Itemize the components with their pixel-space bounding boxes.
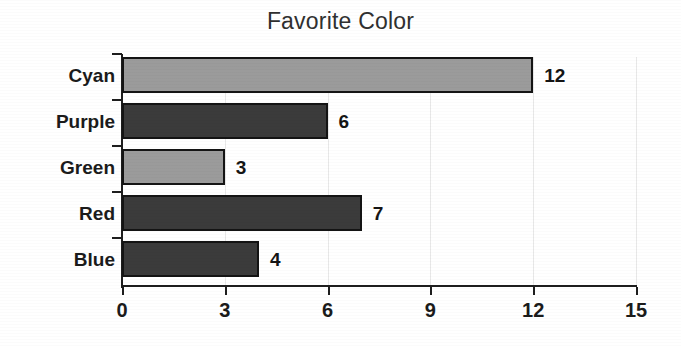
bar-value-label-green: 3 [236,158,247,177]
bar-value-label-purple: 6 [339,112,350,131]
x-tick-label-6: 6 [308,300,348,320]
bar-value-label-red: 7 [373,204,384,223]
bar-cyan[interactable] [122,57,533,93]
bar-value-label-blue: 4 [270,250,281,269]
x-tick-label-12: 12 [513,300,553,320]
x-axis-line [121,285,637,287]
x-tick-label-0: 0 [102,300,142,320]
x-tick-3 [225,287,227,295]
category-label-green: Green [5,158,115,177]
x-tick-12 [533,287,535,295]
gridline-12 [533,57,534,285]
bar-red[interactable] [122,195,362,231]
category-label-cyan: Cyan [5,66,115,85]
bar-purple[interactable] [122,103,328,139]
x-tick-label-3: 3 [205,300,245,320]
gridline-15 [636,57,637,285]
category-label-purple: Purple [5,112,115,131]
x-tick-15 [636,287,638,295]
x-tick-label-9: 9 [410,300,450,320]
x-tick-9 [430,287,432,295]
x-tick-6 [328,287,330,295]
bar-value-label-cyan: 12 [544,66,565,85]
category-label-blue: Blue [5,250,115,269]
chart-screenshot: Favorite Color 126374 CyanPurpleGreenRed… [0,0,681,346]
bar-blue[interactable] [122,241,259,277]
y-axis-labels-group: CyanPurpleGreenRedBlue [0,0,115,346]
x-tick-label-15: 15 [616,300,656,320]
category-label-red: Red [5,204,115,223]
x-tick-0 [122,287,124,295]
bar-green[interactable] [122,149,225,185]
